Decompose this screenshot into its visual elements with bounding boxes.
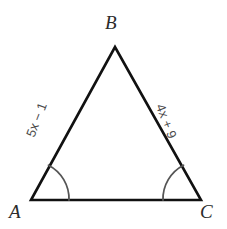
vertex-label-a: A (9, 202, 21, 221)
vertex-label-c: C (200, 202, 213, 221)
vertex-label-b: B (105, 13, 117, 32)
